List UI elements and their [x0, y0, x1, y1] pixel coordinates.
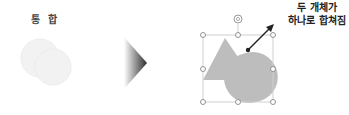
resize-handle-ne: [271, 33, 276, 38]
merged-shape[interactable]: [203, 38, 278, 103]
resize-handle-s: [236, 100, 241, 105]
callout-line-1: 두 개체가: [282, 1, 349, 14]
before-shapes: [21, 39, 71, 85]
resize-handle-se: [271, 100, 276, 105]
resize-handle-n: [236, 33, 241, 38]
callout-line-2: 하나로 합쳐짐: [282, 14, 349, 27]
circle-shape-right: [35, 49, 71, 85]
resize-handle-nw: [201, 33, 206, 38]
resize-handle-e: [271, 67, 276, 72]
resize-handle-sw: [201, 100, 206, 105]
transition-arrow-icon: [124, 37, 147, 89]
rotate-icon: [234, 15, 242, 23]
callout-arrow-icon: [246, 24, 274, 52]
callout-text: 두 개체가 하나로 합쳐짐: [282, 1, 349, 27]
resize-handle-w: [201, 67, 206, 72]
